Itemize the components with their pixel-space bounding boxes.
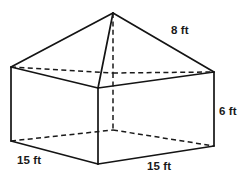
dimension-label-base-left: 15 ft	[17, 155, 41, 167]
dimension-label-base-right: 15 ft	[147, 161, 171, 173]
bottom-face-group	[11, 130, 214, 164]
dimension-label-slant-edge: 8 ft	[171, 25, 189, 37]
top-face-edge-back-right	[113, 72, 214, 73]
bottom-face-edge-back-right	[113, 130, 214, 146]
geometry-figure-canvas: 8 ft 6 ft 15 ft 15 ft	[0, 0, 244, 175]
dimension-label-prism-height: 6 ft	[219, 106, 237, 118]
pyramid-edge-apex-to-top-left	[11, 13, 113, 67]
composite-solid-drawing	[0, 0, 244, 175]
top-face-edge-front-right	[98, 72, 214, 88]
pyramid-edge-apex-to-top-front	[98, 13, 113, 88]
pyramid-edge-apex-to-top-right	[113, 13, 214, 72]
